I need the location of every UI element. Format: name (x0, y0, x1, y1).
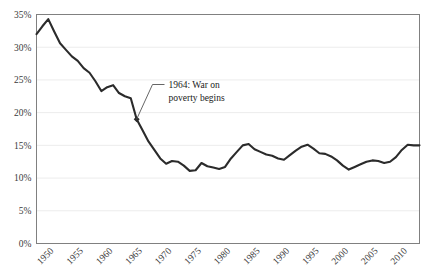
chart-canvas: 0%5%10%15%20%25%30%35%195019551960196519… (0, 0, 429, 277)
y-axis-tick-label: 10% (14, 173, 32, 183)
x-axis-tick-label: 1990 (271, 246, 292, 267)
y-axis-tick-label: 15% (14, 141, 32, 151)
x-axis-tick-label: 1955 (65, 246, 86, 267)
x-axis-tick-label: 1975 (182, 246, 203, 267)
annotation-label-line-1: 1964: War on (169, 80, 221, 90)
y-axis-tick-label: 20% (14, 108, 32, 118)
x-axis-tick-label: 2010 (389, 246, 410, 267)
x-axis-tick-label: 1980 (212, 246, 233, 267)
y-axis-tick-label: 25% (14, 75, 32, 85)
x-axis-tick-label: 1965 (123, 246, 144, 267)
annotation-leader-line (137, 85, 165, 120)
plot-frame (37, 15, 420, 244)
data-series-line (37, 19, 420, 171)
annotation-label-line-2: poverty begins (169, 93, 226, 103)
x-axis-tick-label: 1960 (94, 246, 115, 267)
y-axis-tick-label: 30% (14, 43, 32, 53)
x-axis-tick-label: 1985 (241, 246, 262, 267)
x-axis-tick-label: 1950 (35, 246, 56, 267)
y-axis-tick-label: 0% (19, 239, 32, 249)
y-axis-tick-label: 35% (14, 10, 32, 20)
x-axis-tick-label: 2005 (359, 246, 380, 267)
x-axis-tick-label: 1995 (300, 246, 321, 267)
x-axis-tick-label: 2000 (330, 246, 351, 267)
y-axis-tick-label: 5% (19, 206, 32, 216)
x-axis-tick-label: 1970 (153, 246, 174, 267)
poverty-rate-line-chart: 0%5%10%15%20%25%30%35%195019551960196519… (0, 0, 429, 277)
